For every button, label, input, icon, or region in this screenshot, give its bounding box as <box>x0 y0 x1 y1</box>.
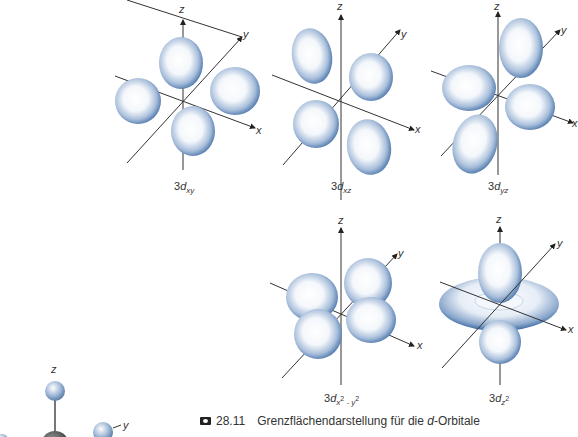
orbital-3dxz <box>272 15 414 200</box>
z-axis-label: z <box>51 363 57 375</box>
x-axis-label: x <box>256 124 262 136</box>
y-axis-label: y <box>561 24 567 36</box>
orbital-label-dyz: 3dyz <box>488 180 508 195</box>
molecule-model <box>0 381 121 437</box>
lobe <box>210 67 260 115</box>
lobe <box>171 106 215 156</box>
central-atom <box>41 431 69 437</box>
atom-ball <box>45 381 65 401</box>
x-axis-label: x <box>572 117 578 129</box>
y-axis-label: y <box>557 237 563 249</box>
orbital-label-dx2-y2: 3dx2 - y2 <box>324 392 359 407</box>
orbital-3dxy <box>115 0 260 170</box>
figure-number: 28.11 <box>216 414 245 428</box>
z-axis-label: z <box>338 214 344 226</box>
figure-icon <box>200 417 211 425</box>
z-axis-label: z <box>494 0 500 12</box>
lobe <box>115 78 161 124</box>
z-axis-label: z <box>179 3 185 15</box>
y-axis-label: y <box>123 419 129 431</box>
x-axis-label: x <box>568 323 574 335</box>
y-axis-label: y <box>243 28 249 40</box>
y-axis-label: y <box>401 28 407 40</box>
figure-caption: 28.11Grenzflächendarstellung für die d-O… <box>200 414 480 428</box>
z-axis-label: z <box>337 0 343 12</box>
orbital-label-dz2: 3dz2 <box>489 392 509 407</box>
x-axis-label: x <box>415 123 421 135</box>
atom-ball <box>93 422 113 437</box>
y-axis-label: y <box>398 247 404 259</box>
orbital-label-dxy: 3dxy <box>174 180 194 195</box>
z-axis-label: z <box>496 213 502 225</box>
orbital-3dz2 <box>439 227 566 385</box>
orbital-3dyz <box>431 12 573 179</box>
x-axis-label: x <box>417 339 423 351</box>
orbital-label-dxz: 3dxz <box>331 180 351 195</box>
lobe <box>159 37 203 89</box>
orbital-3dx2-y2 <box>270 228 414 385</box>
